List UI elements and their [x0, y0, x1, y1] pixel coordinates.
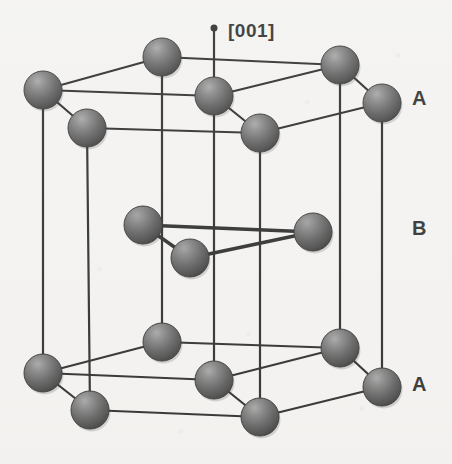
vertical-edge-bond: [87, 128, 90, 410]
hcp-unit-cell-diagram: [0, 0, 452, 464]
atom-bottom-layer: [321, 329, 359, 367]
top-hexagon-bond: [43, 90, 214, 96]
middle-layer-bond-group: [143, 225, 313, 258]
atom-bottom-layer: [71, 391, 109, 429]
bottom-hexagon-bond: [43, 373, 214, 380]
bottom-hexagon-bond: [162, 342, 340, 348]
atom-top-layer: [143, 38, 181, 76]
axis-tip-dot: [211, 25, 218, 32]
layer-label-a-top: A: [412, 88, 426, 108]
atom-bottom-layer: [363, 368, 401, 406]
atom-bottom-layer: [24, 354, 62, 392]
layer-label-a-bottom: A: [412, 374, 426, 394]
atom-top-layer: [24, 71, 62, 109]
atom-middle-layer: [124, 206, 162, 244]
middle-layer-atom-group: [124, 206, 334, 280]
atom-top-layer: [241, 114, 279, 152]
layer-label-b-middle: B: [412, 218, 426, 238]
axis-direction-label: [001]: [228, 21, 275, 40]
atom-bottom-layer: [195, 361, 233, 399]
middle-triangle-bond: [143, 225, 313, 232]
atom-middle-layer: [294, 213, 332, 251]
crystal-structure-figure: [001] A B A: [0, 0, 452, 464]
top-hexagon-bond: [87, 128, 260, 133]
bottom-hexagon-bond: [90, 410, 260, 417]
top-hexagon-bond: [162, 57, 340, 65]
atom-top-layer: [195, 77, 233, 115]
atom-top-layer: [363, 84, 401, 122]
atom-bottom-layer: [241, 398, 279, 436]
atom-top-layer: [321, 46, 359, 84]
atom-middle-layer: [171, 239, 209, 277]
atom-top-layer: [68, 109, 106, 147]
atom-bottom-layer: [143, 323, 181, 361]
